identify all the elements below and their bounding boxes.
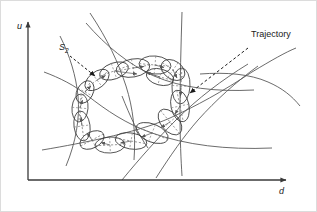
flow-curve-6 bbox=[122, 64, 248, 180]
s2-label: S2 bbox=[59, 43, 69, 54]
s2-label-subscript: 2 bbox=[65, 47, 69, 54]
direction-arrow-10 bbox=[81, 117, 82, 126]
direction-arrow-15 bbox=[147, 73, 161, 78]
direction-arrow-7 bbox=[121, 141, 132, 143]
flow-curve-5 bbox=[86, 23, 254, 90]
y-axis-label: u bbox=[17, 22, 22, 31]
flow-curve-4 bbox=[42, 48, 296, 150]
trajectory-label: Trajectory bbox=[251, 30, 291, 39]
x-axis-label: d bbox=[279, 187, 284, 196]
trajectory-pointer bbox=[190, 48, 248, 93]
direction-arrow-3 bbox=[181, 86, 182, 96]
direction-arrow-5 bbox=[161, 122, 170, 128]
phase-plane-figure: u d S2 Trajectory bbox=[0, 0, 317, 212]
flow-curve-7 bbox=[156, 66, 258, 178]
direction-arrow-8 bbox=[101, 143, 110, 146]
